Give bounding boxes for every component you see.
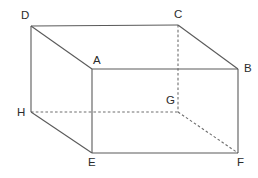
- vertex-label-a: A: [93, 55, 101, 67]
- hidden-edges-group: [31, 25, 238, 153]
- edge-cb: [178, 25, 238, 69]
- edge-gf: [178, 112, 238, 153]
- edge-he: [31, 112, 92, 153]
- vertex-label-g: G: [166, 95, 175, 107]
- vertex-label-f: F: [237, 157, 244, 169]
- vertex-label-e: E: [88, 157, 96, 169]
- vertex-label-c: C: [174, 9, 182, 21]
- vertex-label-h: H: [17, 107, 25, 119]
- edge-dc: [31, 25, 178, 26]
- edge-da: [31, 26, 92, 69]
- solid-edges-group: [31, 25, 238, 153]
- vertex-label-b: B: [244, 63, 252, 75]
- vertex-label-d: D: [21, 10, 29, 22]
- cuboid-svg: [0, 0, 258, 178]
- cuboid-diagram: DCABHGEF: [0, 0, 258, 178]
